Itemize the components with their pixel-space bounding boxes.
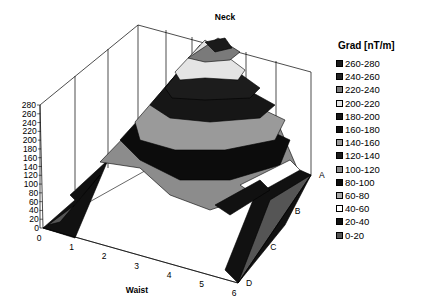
neck-label: Neck — [215, 12, 236, 22]
x-tick-label: 0 — [37, 233, 42, 243]
legend-swatch — [336, 86, 343, 93]
legend-items: 260-280240-260220-240200-220180-200160-1… — [336, 57, 426, 242]
z-tick-label: 40 — [29, 205, 39, 215]
legend-swatch — [336, 218, 343, 225]
legend-swatch — [336, 126, 343, 133]
legend-item: 200-220 — [336, 97, 426, 110]
legend-label: 120-140 — [345, 150, 380, 161]
z-tick-label: 60 — [29, 197, 39, 207]
legend-item: 20-40 — [336, 215, 426, 228]
legend-item: 120-140 — [336, 149, 426, 162]
legend-label: 40-60 — [345, 203, 369, 214]
x-tick-label: 1 — [69, 242, 74, 252]
z-tick-label: 220 — [22, 126, 36, 136]
z-tick-label: 260 — [22, 109, 36, 119]
depth-tick-label: D — [246, 278, 252, 288]
legend-item: 60-80 — [336, 189, 426, 202]
z-tick-label: 20 — [29, 214, 39, 224]
legend: Grad [nT/m] 260-280240-260220-240200-220… — [336, 40, 426, 242]
legend-label: 20-40 — [345, 216, 369, 227]
legend-swatch — [336, 205, 343, 212]
depth-tick-label: C — [270, 242, 276, 252]
x-tick-label: 3 — [134, 261, 139, 271]
depth-tick-label: A — [319, 170, 325, 180]
x-tick-label: 5 — [199, 279, 204, 289]
z-tick-label: 100 — [24, 179, 38, 189]
z-tick-label: 160 — [23, 153, 37, 163]
z-tick-label: 0 — [34, 223, 39, 233]
legend-label: 180-200 — [345, 111, 380, 122]
x-tick-label: 2 — [102, 251, 107, 261]
legend-label: 220-240 — [345, 84, 380, 95]
legend-swatch — [336, 139, 343, 146]
legend-swatch — [336, 152, 343, 159]
legend-swatch — [336, 166, 343, 173]
legend-swatch — [336, 100, 343, 107]
z-tick-label: 80 — [29, 188, 39, 198]
legend-item: 140-160 — [336, 136, 426, 149]
legend-item: 100-120 — [336, 163, 426, 176]
legend-item: 160-180 — [336, 123, 426, 136]
z-tick-label: 140 — [23, 162, 37, 172]
legend-label: 80-100 — [345, 177, 375, 188]
legend-item: 80-100 — [336, 176, 426, 189]
waist-label: Waist — [126, 285, 149, 295]
legend-swatch — [336, 73, 343, 80]
surface-plot: 020406080100120140160180200220240260280 … — [0, 0, 330, 305]
legend-label: 260-280 — [345, 58, 380, 69]
legend-label: 200-220 — [345, 98, 380, 109]
legend-swatch — [336, 113, 343, 120]
legend-label: 0-20 — [345, 230, 364, 241]
legend-swatch — [336, 60, 343, 67]
legend-swatch — [336, 232, 343, 239]
legend-label: 160-180 — [345, 124, 380, 135]
legend-item: 240-260 — [336, 70, 426, 83]
x-tick-label: 4 — [167, 270, 172, 280]
legend-item: 0-20 — [336, 228, 426, 241]
z-tick-label: 240 — [22, 118, 36, 128]
legend-label: 100-120 — [345, 164, 380, 175]
legend-swatch — [336, 192, 343, 199]
legend-swatch — [336, 179, 343, 186]
legend-title: Grad [nT/m] — [338, 40, 426, 51]
z-tick-label: 280 — [22, 100, 36, 110]
legend-label: 60-80 — [345, 190, 369, 201]
legend-item: 220-240 — [336, 83, 426, 96]
x-tick-label: 6 — [232, 288, 237, 298]
legend-item: 260-280 — [336, 57, 426, 70]
legend-item: 180-200 — [336, 110, 426, 123]
z-tick-label: 200 — [23, 135, 37, 145]
legend-item: 40-60 — [336, 202, 426, 215]
legend-label: 140-160 — [345, 137, 380, 148]
depth-tick-label: B — [295, 206, 301, 216]
legend-label: 240-260 — [345, 71, 380, 82]
z-tick-label: 120 — [24, 170, 38, 180]
z-tick-label: 180 — [23, 144, 37, 154]
